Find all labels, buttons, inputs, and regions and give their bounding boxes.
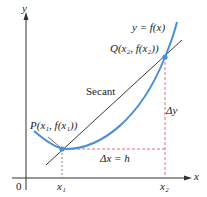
origin-label: 0	[16, 180, 22, 192]
secant-label: Secant	[86, 85, 115, 97]
point-p	[59, 146, 64, 151]
secant-line	[46, 40, 182, 165]
point-q-label: Q(x₂, f(x₂))	[110, 42, 159, 54]
x2-label: x₂	[160, 180, 169, 192]
curve-label: y = f(x)	[132, 21, 165, 33]
y-axis-label: y	[22, 2, 27, 14]
x-axis-label: x	[194, 170, 199, 182]
diagram-graphics	[0, 0, 207, 197]
secant-diagram: y x 0 y = f(x) Q(x₂, f(x₂)) Secant P(x₁,…	[0, 0, 207, 197]
x-axis-arrow-icon	[184, 176, 192, 181]
delta-y-label: Δy	[166, 104, 177, 116]
x1-label: x₁	[57, 180, 66, 192]
point-p-label: P(x₁, f(x₁))	[30, 119, 77, 131]
point-q	[162, 54, 167, 59]
delta-x-label: Δx = h	[100, 152, 130, 164]
